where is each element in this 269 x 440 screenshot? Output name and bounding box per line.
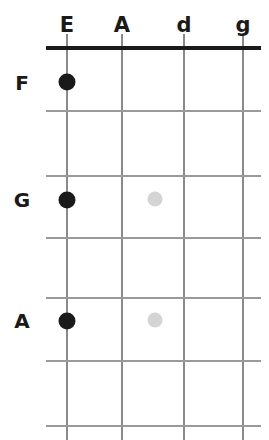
note-dot-E-G xyxy=(59,192,76,209)
string-label-d: d xyxy=(176,15,191,36)
note-label-G: G xyxy=(14,190,30,210)
nut-line xyxy=(46,46,261,50)
fret-marker-dot-4 xyxy=(148,313,163,328)
fret-line-1 xyxy=(46,110,261,112)
note-label-F: F xyxy=(15,73,29,93)
string-label-E: E xyxy=(60,15,74,36)
fretboard-diagram: EAdgFGA xyxy=(0,0,269,440)
fret-line-2 xyxy=(46,175,261,177)
note-dot-E-A xyxy=(59,313,76,330)
fret-line-3 xyxy=(46,237,261,239)
string-label-g: g xyxy=(235,15,250,36)
fret-line-5 xyxy=(46,360,261,362)
fret-marker-dot-3 xyxy=(148,192,163,207)
note-dot-E-F xyxy=(59,74,76,91)
string-label-A: A xyxy=(114,15,130,36)
fret-line-4 xyxy=(46,297,261,299)
fret-line-6 xyxy=(46,425,261,427)
note-label-A: A xyxy=(14,311,29,331)
